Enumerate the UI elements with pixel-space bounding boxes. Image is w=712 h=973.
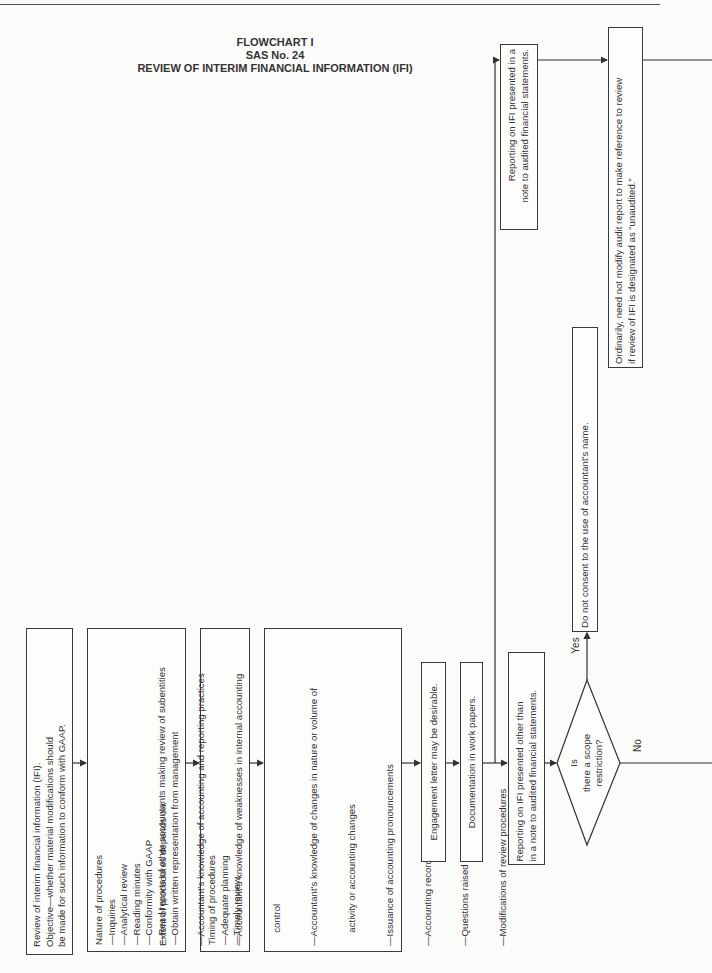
text-line: Nature of procedures [92, 635, 105, 945]
text-line: Do not consent to the use of accountant'… [579, 332, 592, 628]
text-line: —Accountant's knowledge of accounting an… [194, 634, 207, 946]
text-line: Objective—whether material modifications… [43, 637, 56, 947]
box-review-text: Review of interim financial information … [31, 637, 69, 947]
box-engagement-letter: Engagement letter may be desirable. [421, 662, 446, 862]
text-line: be made for such information to conform … [56, 637, 69, 947]
text-line: there a scope [581, 718, 594, 808]
text-line: Ordinarily, need not modify audit report… [613, 32, 626, 364]
text-line: restriction? [593, 718, 606, 808]
box-documentation-text: Documentation in work papers. [465, 667, 478, 857]
box-review-of-ifi: Review of interim financial information … [26, 628, 73, 955]
box-reporting-other-text: Reporting on IFI presented other than in… [514, 656, 539, 861]
text-line: Documentation in work papers. [465, 667, 478, 857]
box-do-not-consent-text: Do not consent to the use of accountant'… [579, 332, 592, 628]
text-line: activity or accounting changes [346, 634, 359, 946]
text-line: in a note to audited financial statement… [527, 656, 540, 861]
box-documentation: Documentation in work papers. [460, 662, 483, 862]
box-do-not-consent: Do not consent to the use of accountant'… [572, 327, 598, 632]
decision-yes-label: Yes [570, 637, 581, 653]
text-line: Review of interim financial information … [31, 637, 44, 947]
text-line: Reporting on IFI presented other than [514, 656, 527, 861]
text-line: —Analytical review [118, 635, 131, 945]
text-line: Is [568, 718, 581, 808]
text-line: if review of IFI is designated as “unaud… [626, 32, 639, 364]
box-reporting-note-text: Reporting on IFI presented in a note to … [506, 49, 531, 225]
box-ordinarily-need-not-modify: Ordinarily, need not modify audit report… [608, 27, 643, 368]
text-line: control [270, 634, 283, 946]
box-engagement-text: Engagement letter may be desirable. [427, 667, 440, 857]
text-line: —Accountant's knowledge of changes in na… [308, 634, 321, 946]
text-line: Engagement letter may be desirable. [427, 667, 440, 857]
text-line: —Accountant's knowledge of weaknesses in… [232, 634, 245, 946]
box-ordinarily-text: Ordinarily, need not modify audit report… [613, 32, 638, 364]
text-line: Reporting on IFI presented in a [506, 49, 519, 225]
text-line: note to audited financial statements. [519, 49, 532, 225]
box-extent-of-procedures: Extent of procedures depends on: —Accoun… [264, 628, 402, 952]
text-line: —Issuance of accounting pronouncements [383, 634, 396, 946]
text-line: Extent of procedures depends on: [157, 634, 170, 946]
decision-no-label: No [632, 739, 643, 752]
decision-question: Is there a scope restriction? [568, 718, 606, 808]
box-reporting-in-note: Reporting on IFI presented in a note to … [500, 44, 538, 230]
box-reporting-other-than-note: Reporting on IFI presented other than in… [508, 652, 545, 865]
text-line: —Inquiries [105, 635, 118, 945]
